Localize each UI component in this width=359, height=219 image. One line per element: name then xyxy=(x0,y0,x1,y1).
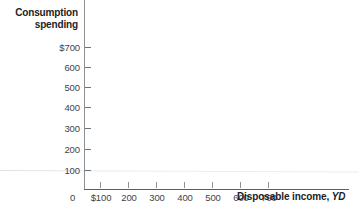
x-axis-tick xyxy=(268,182,269,188)
x-axis-tick-label: $100 xyxy=(91,192,112,203)
y-axis-tick xyxy=(85,128,91,129)
plot-area xyxy=(85,0,349,189)
x-axis-title-text: Disposable income, xyxy=(237,191,332,202)
y-axis-tick xyxy=(85,170,91,171)
x-axis-tick xyxy=(156,182,157,188)
x-axis-title-variable: YD xyxy=(332,191,346,202)
x-axis-tick xyxy=(240,182,241,188)
x-axis-line xyxy=(84,189,349,190)
x-axis-origin-label: 0 xyxy=(70,192,75,203)
x-axis-tick-label: 500 xyxy=(205,192,221,203)
x-axis-tick xyxy=(100,182,101,188)
x-axis-tick-label: 300 xyxy=(149,192,165,203)
x-axis-title: Disposable income, YD xyxy=(237,191,346,202)
y-axis-tick-label: 300 xyxy=(0,123,80,134)
y-axis-tick-label: $700 xyxy=(0,42,80,53)
y-axis-tick xyxy=(85,47,91,48)
x-axis-tick-label: 400 xyxy=(177,192,193,203)
y-axis-tick xyxy=(85,67,91,68)
y-axis-tick-labels: $700 600 500 400 300 200 100 xyxy=(0,0,80,190)
y-axis-tick xyxy=(85,149,91,150)
y-axis-tick-label: 200 xyxy=(0,144,80,155)
x-axis-tick xyxy=(212,182,213,188)
y-axis-tick-label: 400 xyxy=(0,102,80,113)
x-axis-tick-label: 200 xyxy=(121,192,137,203)
x-axis-tick xyxy=(128,182,129,188)
y-axis-tick-label: 100 xyxy=(0,165,80,176)
y-axis-tick xyxy=(85,107,91,108)
chart-figure: Consumption spending $700 600 500 400 30… xyxy=(0,0,359,219)
y-axis-tick-label: 600 xyxy=(0,62,80,73)
y-axis-tick xyxy=(85,87,91,88)
y-axis-tick-label: 500 xyxy=(0,82,80,93)
x-axis-tick xyxy=(184,182,185,188)
